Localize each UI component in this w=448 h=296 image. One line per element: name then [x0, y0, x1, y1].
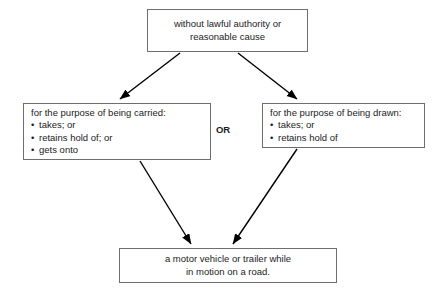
connector-label-or: OR — [208, 124, 238, 135]
node-bottom-line-2: in motion on a road. — [186, 266, 270, 279]
list-item: gets onto — [31, 144, 210, 157]
node-left-carried: for the purpose of being carried: takes;… — [23, 103, 211, 160]
node-top-line-1: without lawful authority or — [174, 18, 281, 31]
edge-top-to-left — [120, 53, 180, 99]
list-item: retains hold of — [270, 132, 424, 145]
node-top-line-2: reasonable cause — [190, 31, 265, 44]
flowchart-diagram: without lawful authority or reasonable c… — [0, 0, 448, 296]
node-left-bullet-list: takes; or retains hold of; or gets onto — [31, 119, 210, 157]
list-item: takes; or — [31, 119, 210, 132]
edge-left-to-bottom — [140, 161, 191, 244]
list-item: retains hold of; or — [31, 132, 210, 145]
node-right-bullet-list: takes; or retains hold of — [270, 119, 424, 144]
node-top-condition: without lawful authority or reasonable c… — [147, 9, 308, 52]
node-right-drawn: for the purpose of being drawn: takes; o… — [262, 103, 425, 148]
node-bottom-object: a motor vehicle or trailer while in moti… — [119, 248, 337, 283]
node-left-heading: for the purpose of being carried: — [31, 107, 210, 120]
edge-top-to-right — [238, 53, 297, 99]
edge-right-to-bottom — [233, 149, 297, 244]
node-right-heading: for the purpose of being drawn: — [270, 107, 424, 120]
list-item: takes; or — [270, 119, 424, 132]
node-bottom-line-1: a motor vehicle or trailer while — [165, 253, 291, 266]
